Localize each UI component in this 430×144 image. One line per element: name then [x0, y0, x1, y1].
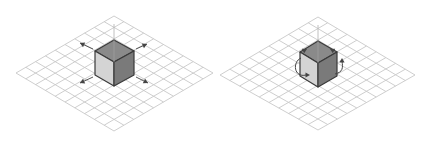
figure — [0, 0, 430, 144]
panel-translate — [16, 16, 213, 131]
panel-rotate — [220, 17, 415, 130]
isometric-diagram — [0, 0, 430, 144]
